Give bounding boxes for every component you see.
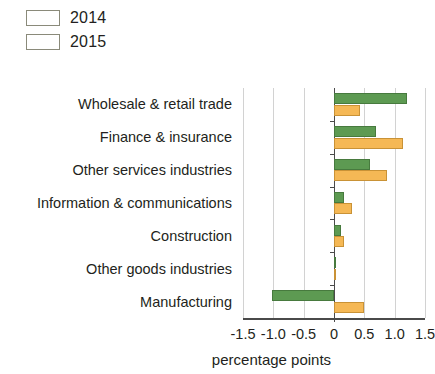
legend-swatch-2015 [26, 34, 60, 50]
category-axis-labels: Wholesale & retail tradeFinance & insura… [0, 88, 240, 318]
x-tick-label: 1.5 [415, 327, 435, 342]
gridline [273, 88, 274, 318]
x-tick-label: -1.0 [261, 327, 286, 342]
x-axis-title-text: percentage points [212, 351, 331, 368]
x-axis-tick-labels: -1.5-1.0-0.500.51.01.5 [200, 327, 431, 347]
bar-2014-2 [334, 170, 387, 181]
bar-2015-3 [334, 192, 344, 203]
bar-2014-4 [334, 236, 344, 247]
x-tick-label: -1.5 [231, 327, 256, 342]
category-tick [330, 187, 334, 188]
chart-legend: 2014 2015 [26, 8, 106, 52]
legend-item-2015: 2015 [26, 32, 106, 52]
x-tick-label: 0 [330, 327, 338, 342]
x-tick-label: -0.5 [291, 327, 316, 342]
legend-swatch-2014 [26, 10, 60, 26]
legend-label-2015: 2015 [70, 34, 106, 50]
gridline [364, 88, 365, 318]
category-label: Wholesale & retail trade [78, 97, 232, 112]
bar-2014-1 [334, 138, 403, 149]
x-tick-label: 1.0 [385, 327, 405, 342]
bar-2015-4 [334, 225, 341, 236]
x-axis-line [243, 318, 425, 320]
category-tick [330, 252, 334, 253]
gridline [243, 88, 244, 318]
x-tick-label: 0.5 [354, 327, 374, 342]
plot-region [243, 88, 425, 318]
legend-label-2014: 2014 [70, 10, 106, 26]
category-tick [330, 121, 334, 122]
category-label: Information & communications [37, 196, 232, 211]
category-tick [330, 285, 334, 286]
gridline [304, 88, 305, 318]
category-label: Other goods industries [86, 262, 232, 277]
bar-2015-5 [334, 257, 336, 268]
gridline [425, 88, 426, 318]
bar-2014-6 [334, 302, 364, 313]
bar-2015-2 [334, 159, 370, 170]
category-label: Other services industries [72, 163, 232, 178]
category-label: Finance & insurance [100, 130, 232, 145]
category-label: Manufacturing [140, 295, 232, 310]
bar-2015-0 [334, 93, 407, 104]
bar-2014-5 [334, 269, 336, 280]
x-tick-mark [334, 318, 335, 322]
category-tick [330, 219, 334, 220]
x-axis-title: percentage points [0, 352, 431, 368]
bar-2015-1 [334, 126, 376, 137]
bar-2014-3 [334, 203, 352, 214]
category-tick [330, 154, 334, 155]
gridline [395, 88, 396, 318]
legend-item-2014: 2014 [26, 8, 106, 28]
bar-2015-6 [272, 290, 334, 301]
category-label: Construction [151, 229, 232, 244]
bar-2014-0 [334, 105, 360, 116]
